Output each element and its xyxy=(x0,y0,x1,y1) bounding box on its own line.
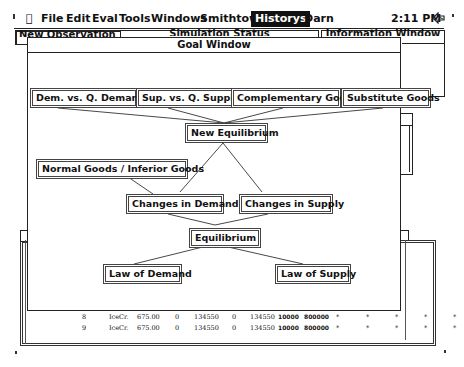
mark-cell: * xyxy=(453,313,456,321)
price-cell: 675.00 xyxy=(137,324,160,332)
price-cell: 675.00 xyxy=(137,313,160,321)
menu-file[interactable]: File xyxy=(41,12,64,26)
information-window-divider xyxy=(402,43,444,44)
node-law-of-demand[interactable]: Law of Demand xyxy=(103,264,182,284)
value-cell: 0 xyxy=(175,313,179,321)
side-window-right-upper[interactable] xyxy=(399,113,413,175)
node-law-of-supply[interactable]: Law of Supply xyxy=(275,264,351,284)
node-new-equilibrium[interactable]: New Equilibrium xyxy=(185,123,268,143)
history-window-left-scroll[interactable] xyxy=(25,240,26,344)
menu-historys[interactable]: Historys xyxy=(251,11,310,27)
menu-tools[interactable]: Tools xyxy=(119,12,150,26)
value-cell: 800000 xyxy=(304,324,329,332)
row-number: 9 xyxy=(82,324,86,332)
mark-cell: * xyxy=(424,313,427,321)
reply-arrow-icon[interactable] xyxy=(432,12,446,28)
value-cell: 0 xyxy=(232,324,236,332)
value-cell: 800000 xyxy=(304,313,329,321)
good-cell: IceCr. xyxy=(109,324,129,332)
apple-menu-icon[interactable]:  xyxy=(26,12,33,26)
value-cell: 0 xyxy=(175,324,179,332)
row-number: 8 xyxy=(82,313,86,321)
goal-window[interactable]: Goal Window Dem. vs. Q. Demanded Sup. vs… xyxy=(27,37,401,311)
menu-darn[interactable]: Darn xyxy=(304,12,334,26)
side-window-right-upper-header xyxy=(400,114,412,126)
simulation-status-title: Simulation Status xyxy=(121,29,318,36)
value-cell: 134550 xyxy=(250,324,275,332)
menu-windows[interactable]: Windows xyxy=(151,12,207,26)
value-cell: 134550 xyxy=(194,324,219,332)
screen-corner-top-right xyxy=(452,14,454,17)
node-dem-vs-q-demanded[interactable]: Dem. vs. Q. Demanded xyxy=(30,88,138,108)
side-window-right-upper-inner xyxy=(400,126,410,172)
mark-cell: * xyxy=(453,324,456,332)
menu-eval[interactable]: Eval xyxy=(92,12,118,26)
menu-edit[interactable]: Edit xyxy=(66,12,90,26)
good-cell: IceCr. xyxy=(109,313,129,321)
mark-cell: * xyxy=(395,324,398,332)
mark-cell: * xyxy=(336,324,339,332)
mark-cell: * xyxy=(366,313,369,321)
node-complementary-goods[interactable]: Complementary Goods xyxy=(231,88,341,108)
history-window-right-scroll[interactable] xyxy=(405,240,406,340)
value-cell: 134550 xyxy=(194,313,219,321)
mark-cell: * xyxy=(366,324,369,332)
mark-cell: * xyxy=(336,313,339,321)
mark-cell: * xyxy=(424,324,427,332)
screen-corner-bottom-right xyxy=(444,350,446,353)
value-cell: 0 xyxy=(232,313,236,321)
value-cell: 10000 xyxy=(278,324,299,332)
node-changes-in-demand[interactable]: Changes in Demand xyxy=(126,194,224,214)
node-substitute-goods[interactable]: Substitute Goods xyxy=(341,88,431,108)
screen-corner-bottom-left xyxy=(15,351,17,354)
node-sup-vs-q-supplied[interactable]: Sup. vs. Q. Supplied xyxy=(136,88,234,108)
value-cell: 10000 xyxy=(278,313,299,321)
node-normal-inferior-goods[interactable]: Normal Goods / Inferior Goods xyxy=(36,159,188,179)
value-cell: 134550 xyxy=(250,313,275,321)
menu-bar:  File Edit Eval Tools Windows Smithtown… xyxy=(14,10,444,28)
node-changes-in-supply[interactable]: Changes in Supply xyxy=(239,194,333,214)
node-equilibrium[interactable]: Equilibrium xyxy=(189,228,261,248)
mark-cell: * xyxy=(395,313,398,321)
information-window-title: Information Window xyxy=(322,29,444,36)
new-observation-title: New Observation xyxy=(17,30,120,37)
